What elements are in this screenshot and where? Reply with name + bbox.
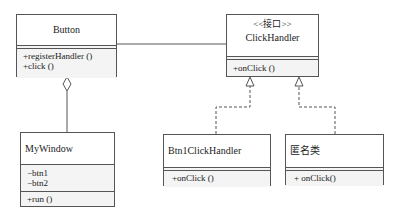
class-header: Btn1ClickHandler [164, 135, 270, 167]
class-name: MyWindow [25, 143, 73, 154]
class-name: Btn1ClickHandler [168, 145, 241, 156]
class-name: ClickHandler [227, 30, 318, 46]
class-my-window[interactable]: MyWindow −btn1 −btn2 +run () [20, 132, 115, 207]
attribute-btn2: −btn2 [27, 178, 114, 188]
class-header: Button [17, 15, 116, 45]
methods-section: +onClick () [227, 60, 318, 76]
class-header: MyWindow [21, 133, 114, 164]
method-on-click: +onClick () [233, 63, 318, 73]
method-on-click: + onClick() [294, 173, 383, 183]
methods-section: +run () [21, 191, 114, 206]
class-anonymous[interactable]: 匿名类 + onClick() [285, 134, 384, 185]
realization-line-btn1 [216, 86, 250, 134]
realization-line-anonymous [299, 86, 335, 134]
aggregation-diamond-icon [63, 77, 71, 91]
method-register-handler: +registerHandler () [23, 51, 116, 61]
attributes-section: −btn1 −btn2 [21, 164, 114, 191]
methods-section: +registerHandler () +click () [17, 49, 116, 78]
stereotype-label: <<接口>> [227, 18, 318, 30]
class-button[interactable]: Button +registerHandler () +click () [16, 14, 117, 77]
methods-section: +onClick () [164, 171, 270, 187]
method-on-click: +onClick () [172, 173, 270, 183]
method-click: +click () [23, 61, 116, 71]
class-name: 匿名类 [290, 145, 320, 156]
class-header: 匿名类 [286, 135, 383, 167]
method-run: +run () [27, 194, 114, 204]
class-click-handler[interactable]: <<接口>> ClickHandler +onClick () [226, 14, 319, 77]
class-name: Button [53, 24, 80, 35]
attribute-btn1: −btn1 [27, 168, 114, 178]
class-header: <<接口>> ClickHandler [227, 15, 318, 56]
class-btn1-click-handler[interactable]: Btn1ClickHandler +onClick () [163, 134, 271, 186]
methods-section: + onClick() [286, 171, 383, 186]
realization-arrowhead-icon [246, 77, 254, 86]
realization-arrowhead-icon [295, 77, 303, 86]
